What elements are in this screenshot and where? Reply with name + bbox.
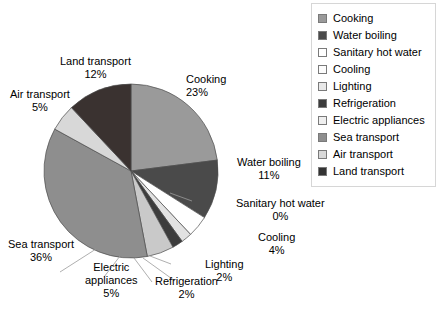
slice-label-refrigeration-pct: 2% — [155, 288, 218, 301]
legend-item[interactable]: Cooling — [318, 61, 431, 78]
slice-label-land-transport: Land transport 12% — [60, 55, 131, 81]
legend-item[interactable]: Air transport — [318, 146, 431, 163]
legend-item-label: Refrigeration — [333, 97, 396, 110]
legend-swatch-icon — [318, 48, 327, 57]
legend-item[interactable]: Cooking — [318, 10, 431, 27]
chart-legend: CookingWater boilingSanitary hot waterCo… — [311, 3, 436, 187]
legend-item-label: Sea transport — [333, 131, 399, 144]
legend-item-label: Sanitary hot water — [333, 46, 422, 59]
legend-swatch-icon — [318, 82, 327, 91]
slice-label-electric-appliances-pct: 5% — [85, 287, 138, 300]
slice-label-electric-appliances-line1: Electric — [93, 261, 129, 273]
slice-label-sea-transport-pct: 36% — [8, 251, 74, 264]
legend-item[interactable]: Electric appliances — [318, 112, 431, 129]
slice-label-air-transport-name: Air transport — [10, 88, 70, 100]
legend-item[interactable]: Refrigeration — [318, 95, 431, 112]
slice-label-water-boiling: Water boiling 11% — [237, 156, 301, 182]
legend-item-label: Air transport — [333, 148, 393, 161]
slice-label-water-boiling-name: Water boiling — [237, 156, 301, 168]
legend-item-label: Water boiling — [333, 29, 397, 42]
legend-swatch-icon — [318, 14, 327, 23]
legend-swatch-icon — [318, 116, 327, 125]
slice-label-sanitary-hot-water: Sanitary hot water 0% — [236, 197, 325, 223]
legend-swatch-icon — [318, 167, 327, 176]
slice-label-sea-transport-name: Sea transport — [8, 238, 74, 250]
slice-label-lighting-name: Lighting — [205, 258, 244, 270]
legend-swatch-icon — [318, 150, 327, 159]
slice-label-land-transport-pct: 12% — [60, 68, 131, 81]
legend-item[interactable]: Land transport — [318, 163, 431, 180]
slice-label-sea-transport: Sea transport 36% — [8, 238, 74, 264]
slice-label-electric-appliances: Electric appliances 5% — [85, 261, 138, 300]
slice-label-cooling-name: Cooling — [258, 231, 295, 243]
slice-label-refrigeration: Refrigeration 2% — [155, 275, 218, 301]
legend-swatch-icon — [318, 65, 327, 74]
slice-label-cooking-pct: 23% — [186, 86, 226, 99]
pie-chart-area: Cooking 23% Water boiling 11% Sanitary h… — [0, 0, 310, 318]
legend-item[interactable]: Lighting — [318, 78, 431, 95]
slice-label-cooking: Cooking 23% — [186, 73, 226, 99]
slice-label-land-transport-name: Land transport — [60, 55, 131, 67]
slice-label-electric-appliances-line2: appliances — [85, 274, 138, 287]
legend-swatch-icon — [318, 133, 327, 142]
leader-line-sanitary-hot-water — [150, 256, 171, 264]
slice-label-cooking-name: Cooking — [186, 73, 226, 85]
pie-slices-group — [44, 84, 218, 258]
legend-swatch-icon — [318, 31, 327, 40]
legend-item-label: Cooling — [333, 63, 370, 76]
legend-item-label: Land transport — [333, 165, 404, 178]
slice-label-air-transport-pct: 5% — [10, 101, 70, 114]
legend-item-label: Cooking — [333, 12, 373, 25]
slice-label-refrigeration-name: Refrigeration — [155, 275, 218, 287]
legend-item[interactable]: Sea transport — [318, 129, 431, 146]
legend-item[interactable]: Water boiling — [318, 27, 431, 44]
slice-label-sanitary-hot-water-pct: 0% — [236, 210, 325, 223]
legend-swatch-icon — [318, 99, 327, 108]
slice-label-air-transport: Air transport 5% — [10, 88, 70, 114]
legend-item[interactable]: Sanitary hot water — [318, 44, 431, 61]
slice-label-sanitary-hot-water-name: Sanitary hot water — [236, 197, 325, 209]
legend-item-label: Electric appliances — [333, 114, 425, 127]
slice-label-cooling-pct: 4% — [258, 244, 295, 257]
slice-label-water-boiling-pct: 11% — [237, 169, 301, 182]
slice-label-cooling: Cooling 4% — [258, 231, 295, 257]
legend-item-label: Lighting — [333, 80, 372, 93]
